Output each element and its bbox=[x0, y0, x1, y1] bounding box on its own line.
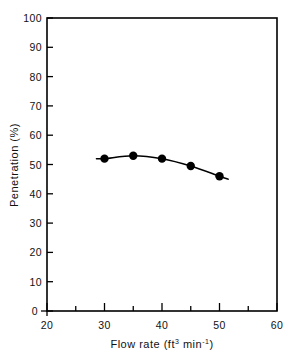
y-tick-label-50: 50 bbox=[30, 159, 42, 171]
data-point-35[interactable] bbox=[129, 152, 137, 160]
data-point-45[interactable] bbox=[187, 162, 195, 170]
x-axis-title-sup-inverse: -1 bbox=[202, 338, 209, 345]
x-axis-tick-labels: 20 30 40 50 60 bbox=[41, 319, 283, 331]
x-axis-title-base: Flow rate (ft bbox=[110, 338, 175, 350]
penetration-vs-flow-rate-chart: 100 90 80 70 60 50 40 30 20 10 0 bbox=[0, 0, 298, 358]
y-tick-label-80: 80 bbox=[30, 71, 42, 83]
y-tick-label-40: 40 bbox=[30, 188, 42, 200]
data-point-40[interactable] bbox=[158, 154, 166, 162]
plot-border bbox=[47, 18, 277, 311]
data-markers bbox=[100, 152, 223, 181]
x-tick-label-40: 40 bbox=[156, 319, 168, 331]
x-axis-title-mid: min bbox=[179, 338, 202, 350]
y-tick-label-20: 20 bbox=[30, 246, 42, 258]
y-tick-label-30: 30 bbox=[30, 217, 42, 229]
x-axis-ticks bbox=[47, 303, 277, 316]
plot-frame bbox=[47, 18, 277, 311]
y-tick-label-0: 0 bbox=[32, 305, 38, 317]
y-tick-label-70: 70 bbox=[30, 100, 42, 112]
x-tick-label-30: 30 bbox=[98, 319, 110, 331]
y-tick-label-90: 90 bbox=[30, 41, 42, 53]
x-tick-label-20: 20 bbox=[41, 319, 53, 331]
data-point-50[interactable] bbox=[215, 172, 223, 180]
y-tick-label-10: 10 bbox=[30, 276, 42, 288]
y-axis-title: Penetration (%) bbox=[8, 123, 20, 207]
x-axis-title-tail: ) bbox=[209, 338, 213, 350]
y-axis-tick-labels: 100 90 80 70 60 50 40 30 20 10 0 bbox=[23, 12, 42, 317]
y-tick-label-60: 60 bbox=[30, 129, 42, 141]
x-axis-title: Flow rate (ft3 min-1) bbox=[110, 338, 213, 350]
x-tick-label-50: 50 bbox=[213, 319, 225, 331]
y-tick-label-100: 100 bbox=[23, 12, 42, 24]
data-point-30[interactable] bbox=[100, 154, 108, 162]
x-tick-label-60: 60 bbox=[271, 319, 283, 331]
chart-figure: 100 90 80 70 60 50 40 30 20 10 0 bbox=[0, 0, 298, 358]
